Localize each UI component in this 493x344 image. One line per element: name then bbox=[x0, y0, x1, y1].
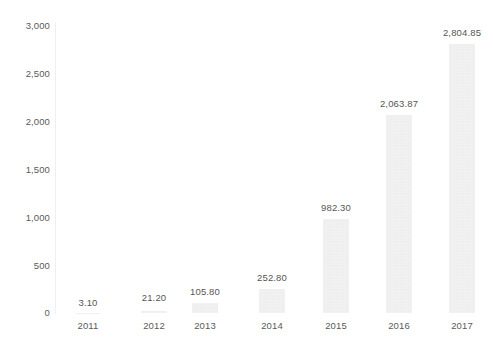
bar-2016[interactable] bbox=[386, 115, 412, 313]
y-tick-1500: 1,500 bbox=[0, 165, 50, 175]
y-tick-label: 2,500 bbox=[2, 69, 50, 79]
x-label-2017: 2017 bbox=[432, 320, 492, 331]
value-label-2011: 3.10 bbox=[58, 297, 118, 308]
y-tick-label: 500 bbox=[2, 261, 50, 271]
x-label-2014: 2014 bbox=[242, 320, 302, 331]
value-label-2015: 982.30 bbox=[306, 202, 366, 213]
x-label-2013: 2013 bbox=[175, 320, 235, 331]
bar-2011[interactable] bbox=[75, 313, 101, 314]
x-label-2016: 2016 bbox=[369, 320, 429, 331]
y-axis-line bbox=[55, 22, 56, 314]
bar-chart: 3,000 2,500 2,000 1,500 1,000 500 0 3.10… bbox=[0, 0, 493, 344]
y-tick-label: 0 bbox=[2, 308, 50, 318]
y-tick-label: 1,000 bbox=[2, 213, 50, 223]
y-tick-2500: 2,500 bbox=[0, 69, 50, 79]
bar-2014[interactable] bbox=[259, 289, 285, 313]
bar-2017[interactable] bbox=[449, 44, 475, 313]
value-label-2016: 2,063.87 bbox=[369, 98, 429, 109]
plot-area: 3,000 2,500 2,000 1,500 1,000 500 0 3.10… bbox=[0, 0, 493, 344]
bar-2012[interactable] bbox=[141, 311, 167, 313]
y-tick-label: 3,000 bbox=[2, 21, 50, 31]
x-label-2015: 2015 bbox=[306, 320, 366, 331]
y-tick-0: 0 bbox=[0, 308, 50, 318]
y-tick-2000: 2,000 bbox=[0, 117, 50, 127]
y-tick-500: 500 bbox=[0, 261, 50, 271]
x-label-2011: 2011 bbox=[58, 320, 118, 331]
y-tick-label: 2,000 bbox=[2, 117, 50, 127]
value-label-2013: 105.80 bbox=[175, 286, 235, 297]
value-label-2014: 252.80 bbox=[242, 272, 302, 283]
bar-2013[interactable] bbox=[192, 303, 218, 313]
bar-2015[interactable] bbox=[323, 219, 349, 313]
y-tick-3000: 3,000 bbox=[0, 21, 50, 31]
value-label-2017: 2,804.85 bbox=[432, 27, 492, 38]
y-tick-1000: 1,000 bbox=[0, 213, 50, 223]
y-tick-label: 1,500 bbox=[2, 165, 50, 175]
